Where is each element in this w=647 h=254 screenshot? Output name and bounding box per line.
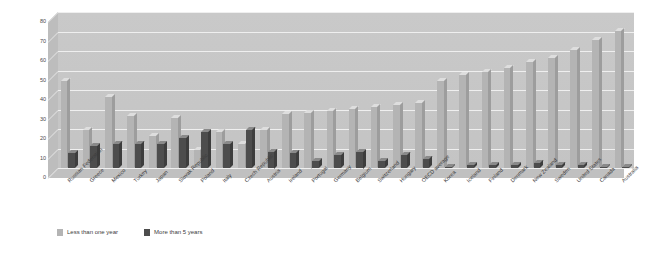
bar	[135, 141, 142, 168]
bar-group	[592, 12, 614, 168]
bar	[223, 141, 230, 168]
bar-group	[459, 12, 481, 168]
bar	[378, 158, 385, 168]
bar-group	[482, 12, 504, 168]
y-axis-tick-label: 20	[24, 136, 46, 142]
bar-front-face	[171, 118, 178, 168]
y-axis-tick-label: 80	[24, 19, 46, 25]
legend-item[interactable]: Less than one year	[57, 229, 118, 236]
bar-side-face	[599, 37, 602, 168]
bar-group	[615, 12, 637, 168]
bar-side-face	[510, 65, 513, 168]
bar	[489, 162, 496, 168]
bar-group	[371, 12, 393, 168]
bar-group	[415, 12, 437, 168]
y-axis: 01020304050607080	[20, 12, 46, 178]
bar-front-face	[334, 155, 341, 168]
bar	[445, 164, 452, 168]
bar-front-face	[327, 111, 334, 168]
bar	[504, 65, 511, 168]
bar	[157, 141, 164, 168]
bar-side-face	[119, 141, 122, 168]
bar-group	[171, 12, 193, 168]
legend-label: Less than one year	[67, 229, 118, 235]
bar-side-face	[363, 149, 366, 169]
bar	[401, 152, 408, 168]
bar	[592, 37, 599, 168]
bar-front-face	[526, 62, 533, 168]
bar-group	[216, 12, 238, 168]
bar-front-face	[600, 167, 607, 168]
bar-side-face	[466, 72, 469, 168]
bar-group	[304, 12, 326, 168]
bar-front-face	[504, 68, 511, 168]
bar-front-face	[216, 132, 223, 168]
bar	[511, 162, 518, 168]
bar-front-face	[149, 136, 156, 168]
bar-side-face	[407, 152, 410, 168]
bar-front-face	[534, 163, 541, 168]
bar	[393, 102, 400, 168]
y-axis-tick-label: 60	[24, 58, 46, 64]
bar	[171, 115, 178, 168]
bar	[304, 110, 311, 169]
bar-front-face	[349, 109, 356, 168]
y-axis-tick-label: 40	[24, 97, 46, 103]
bar	[149, 133, 156, 168]
bar-front-face	[592, 40, 599, 168]
bar-group	[61, 12, 83, 168]
bar-front-face	[246, 130, 253, 168]
bar-front-face	[459, 75, 466, 168]
bar-group	[194, 12, 216, 168]
bar	[127, 113, 134, 168]
bar-side-face	[274, 149, 277, 169]
bar-front-face	[304, 113, 311, 169]
bar	[423, 156, 430, 168]
bar-side-face	[577, 47, 580, 168]
bar	[459, 72, 466, 168]
bar	[578, 162, 585, 168]
bar-front-face	[415, 103, 422, 168]
y-axis-tick-label: 10	[24, 156, 46, 162]
bar	[282, 111, 289, 168]
y-axis-tick-label: 0	[24, 175, 46, 181]
bar	[349, 106, 356, 168]
bar-group	[349, 12, 371, 168]
legend-item[interactable]: More than 5 years	[144, 229, 202, 236]
bar-front-face	[401, 155, 408, 168]
y-axis-tick-label: 70	[24, 39, 46, 45]
bar	[113, 141, 120, 168]
bar	[615, 28, 622, 168]
bar	[526, 59, 533, 168]
bar-chart: 01020304050607080 Russian FederationGree…	[0, 0, 647, 254]
bar-front-face	[113, 144, 120, 168]
bar-group	[548, 12, 570, 168]
bar-front-face	[179, 138, 186, 168]
bar-group	[260, 12, 282, 168]
legend-swatch	[57, 229, 63, 236]
bar-side-face	[296, 150, 299, 168]
bar	[216, 129, 223, 168]
bar	[622, 164, 629, 168]
bar-front-face	[223, 144, 230, 168]
bar-side-face	[141, 141, 144, 168]
bar	[179, 135, 186, 168]
bar-front-face	[127, 116, 134, 168]
bar	[238, 141, 245, 168]
bar-front-face	[290, 153, 297, 168]
bar-side-face	[208, 129, 211, 168]
bar-side-face	[75, 150, 78, 168]
bar	[482, 69, 489, 168]
bar-front-face	[489, 165, 496, 168]
bar	[371, 104, 378, 168]
bar-group	[149, 12, 171, 168]
bar	[534, 160, 541, 168]
bar	[467, 162, 474, 168]
bar-group	[105, 12, 127, 168]
bar-front-face	[356, 152, 363, 169]
bar	[548, 55, 555, 168]
bar-front-face	[61, 81, 68, 168]
bar-group	[83, 12, 105, 168]
bar-front-face	[578, 165, 585, 168]
bar-side-face	[533, 59, 536, 168]
